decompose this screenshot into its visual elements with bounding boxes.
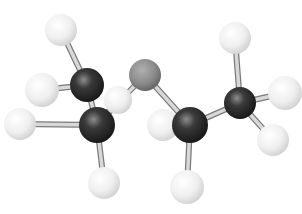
molecule-svg [0,0,302,214]
hydrogen-atom [170,170,204,204]
hydrogen-atom [104,86,132,114]
hydrogen-atom [25,73,59,107]
hydrogen-atom [257,124,289,156]
molecule-model-scene [0,0,302,214]
hydrogen-atom [4,108,36,140]
atom-layer [4,14,302,204]
heteroatom [129,59,161,91]
hydrogen-atom [88,167,120,199]
hydrogen-atom [219,22,251,54]
carbon-atom [79,107,115,143]
hydrogen-atom [268,76,302,110]
carbon-atom [224,87,256,119]
carbon-atom [70,68,104,102]
carbon-atom [172,107,208,143]
hydrogen-atom [45,14,77,46]
